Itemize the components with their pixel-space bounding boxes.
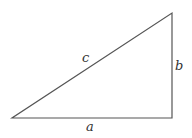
label-vertical-leg-b: b bbox=[175, 58, 183, 73]
triangle-diagram: c b a bbox=[0, 0, 192, 138]
label-horizontal-leg-a: a bbox=[86, 119, 94, 134]
right-triangle bbox=[12, 13, 172, 118]
label-hypotenuse-c: c bbox=[82, 50, 90, 65]
